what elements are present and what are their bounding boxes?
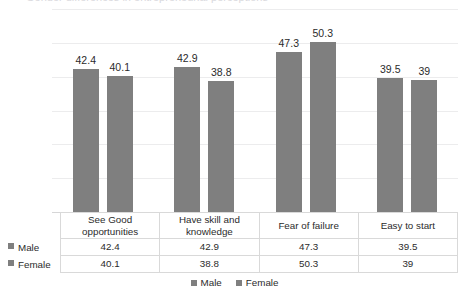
bar-rect [73,69,99,212]
legend-swatch-icon [236,280,242,286]
table-cell: 47.3 [259,239,358,256]
table-column-header: Have skill and knowledge [160,213,259,239]
bar-female-1[interactable]: 38.8 [208,9,234,212]
legend-item-male[interactable]: Male [191,277,222,288]
bar-rect [276,52,302,212]
table-cell: 39 [358,256,457,273]
table-row-header: Male [0,239,61,256]
chart-legend: MaleFemale [0,277,469,288]
bar-value-label: 42.9 [177,52,197,64]
series-swatch-icon [8,260,14,266]
bar-value-label: 38.8 [211,66,231,78]
bar-male-1[interactable]: 42.9 [174,9,200,212]
bar-female-2[interactable]: 50.3 [310,9,336,212]
bar-value-label: 50.3 [313,27,333,39]
legend-item-female[interactable]: Female [236,277,279,288]
clipped-title: Gender differences in entrepreneurial pe… [0,0,469,5]
bar-groups: 42.440.142.938.847.350.339.539 [52,9,458,212]
table-cell: 42.9 [160,239,259,256]
table-row-header: Female [0,256,61,273]
bar-group: 42.440.1 [52,9,154,212]
table-cell: 50.3 [259,256,358,273]
bar-female-0[interactable]: 40.1 [107,9,133,212]
bar-rect [310,42,336,212]
legend-swatch-icon [191,280,197,286]
table-column-header: Easy to start [358,213,457,239]
bar-male-3[interactable]: 39.5 [377,9,403,212]
plot-area: 0102030405060 42.440.142.938.847.350.339… [52,9,458,212]
table-cell: 40.1 [61,256,160,273]
table-row: Male42.442.947.339.5 [0,239,458,256]
table-column-header: See Good opportunities [61,213,160,239]
table-column-header: Fear of failure [259,213,358,239]
bar-value-label: 39.5 [380,63,400,75]
series-swatch-icon [8,243,14,249]
bar-rect [174,67,200,212]
bar-chart: Gender differences in entrepreneurial pe… [0,0,469,294]
bar-rect [107,76,133,212]
bar-group: 47.350.3 [255,9,357,212]
table-header-row: See Good opportunitiesHave skill and kno… [0,213,458,239]
bar-group: 42.938.8 [154,9,256,212]
bar-rect [377,78,403,212]
data-table: See Good opportunitiesHave skill and kno… [0,212,458,273]
bar-group: 39.539 [357,9,459,212]
series-name: Male [18,242,39,253]
bar-male-0[interactable]: 42.4 [73,9,99,212]
bar-value-label: 40.1 [110,61,130,73]
bar-rect [411,80,437,212]
bar-rect [208,81,234,212]
series-name: Female [18,259,51,270]
bar-female-3[interactable]: 39 [411,9,437,212]
table-cell: 38.8 [160,256,259,273]
clipped-title-text: Gender differences in entrepreneurial pe… [0,0,469,3]
table-cell: 39.5 [358,239,457,256]
bar-value-label: 39 [418,65,430,77]
bar-male-2[interactable]: 47.3 [276,9,302,212]
table-row: Female40.138.850.339 [0,256,458,273]
table-cell: 42.4 [61,239,160,256]
legend-label: Female [246,277,279,288]
table-corner-cell [0,213,61,239]
bar-value-label: 47.3 [279,37,299,49]
bar-value-label: 42.4 [76,54,96,66]
legend-label: Male [201,277,222,288]
